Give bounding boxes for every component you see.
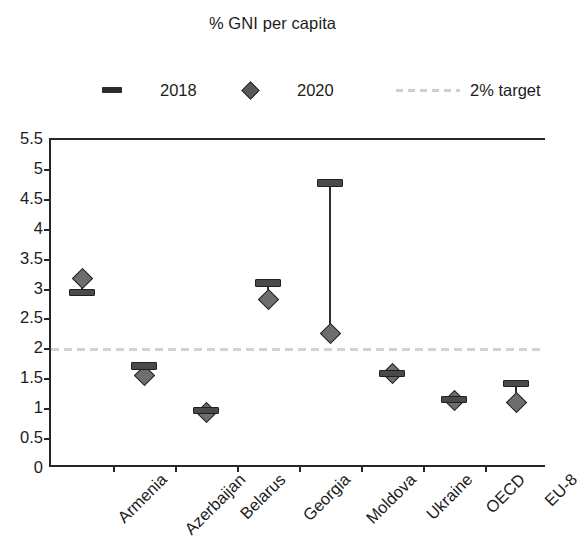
x-category-label: Georgia <box>299 470 354 525</box>
legend-item-2018[interactable]: 2018 <box>102 76 197 104</box>
y-axis-tick <box>44 348 51 350</box>
plot-area <box>49 138 545 467</box>
y-tick-label: 0 <box>1 459 43 476</box>
x-category-label: EU-8 <box>541 470 581 510</box>
data-marker-2020[interactable] <box>71 268 92 289</box>
data-marker-2018[interactable] <box>131 362 157 370</box>
range-connector-line <box>329 183 331 333</box>
y-tick-label: 1 <box>1 399 43 416</box>
x-category-label: Ukraine <box>423 470 477 524</box>
legend-item-target[interactable]: 2% target <box>396 76 541 104</box>
y-tick-label: 2.5 <box>1 309 43 326</box>
diamond-marker-icon <box>241 81 259 99</box>
data-marker-2020[interactable] <box>319 323 340 344</box>
data-marker-2018[interactable] <box>379 370 405 378</box>
legend-label-2020: 2020 <box>297 81 334 100</box>
data-marker-2020[interactable] <box>257 289 278 310</box>
legend-label-2018: 2018 <box>160 81 197 100</box>
x-category-label: Azerbaijan <box>181 470 250 539</box>
data-marker-2018[interactable] <box>317 179 343 187</box>
y-tick-label: 2 <box>1 339 43 356</box>
y-tick-label: 4 <box>1 220 43 237</box>
y-axis-tick <box>44 408 51 410</box>
dashed-line-marker-icon <box>396 89 460 92</box>
y-axis-tick <box>44 378 51 380</box>
y-axis-tick <box>44 438 51 440</box>
data-marker-2020[interactable] <box>505 391 526 412</box>
y-tick-label: 0.5 <box>1 429 43 446</box>
dash-marker-icon <box>102 87 122 93</box>
legend-item-2020[interactable]: 2020 <box>244 76 334 104</box>
plot-inner <box>51 140 545 465</box>
y-axis-tick <box>44 169 51 171</box>
target-reference-line <box>51 348 545 351</box>
data-marker-2018[interactable] <box>69 289 95 297</box>
y-tick-label: 3.5 <box>1 250 43 267</box>
data-marker-2018[interactable] <box>193 407 219 415</box>
y-axis-tick <box>44 289 51 291</box>
y-tick-label: 1.5 <box>1 369 43 386</box>
y-axis-tick <box>44 259 51 261</box>
x-axis-labels: ArmeniaAzerbaijanBelarusGeorgiaMoldovaUk… <box>49 470 545 544</box>
chart-title: % GNI per capita <box>0 14 545 33</box>
y-axis-tick <box>44 199 51 201</box>
data-marker-2018[interactable] <box>255 279 281 287</box>
data-marker-2018[interactable] <box>503 380 529 388</box>
x-category-label: OECD <box>482 470 529 517</box>
x-category-label: Moldova <box>362 470 420 528</box>
y-tick-label: 3 <box>1 280 43 297</box>
chart-legend: 2018 2020 2% target <box>96 76 516 104</box>
legend-label-target: 2% target <box>470 81 541 100</box>
y-tick-label: 5.5 <box>1 130 43 147</box>
y-axis-tick <box>44 229 51 231</box>
y-tick-label: 4.5 <box>1 190 43 207</box>
x-category-label: Armenia <box>114 470 171 527</box>
y-tick-label: 5 <box>1 160 43 177</box>
data-marker-2018[interactable] <box>441 396 467 404</box>
y-axis-tick <box>44 318 51 320</box>
